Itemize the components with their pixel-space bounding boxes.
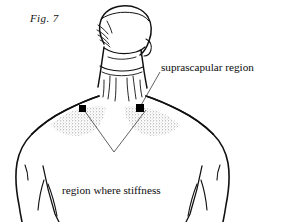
nape-line-2 bbox=[102, 72, 142, 76]
caption-line-1: region where stiffness bbox=[62, 183, 161, 197]
neck-muscle-strokes bbox=[103, 76, 142, 101]
figure-panel: Fig. 7 suprascapular region region where… bbox=[0, 0, 286, 222]
nape-line bbox=[100, 66, 143, 71]
head-crown-contour bbox=[101, 12, 149, 21]
shaded-regions-group bbox=[40, 98, 195, 146]
stiffness-region-caption: region where stiffness of the shoulderss… bbox=[62, 155, 161, 222]
right-suprascapular-marker bbox=[136, 104, 144, 112]
shoulder-right-arm bbox=[213, 134, 229, 222]
occiput-shadow bbox=[108, 57, 136, 59]
hairline bbox=[104, 47, 145, 53]
shoulder-left-arm bbox=[16, 134, 32, 222]
suprascapular-region-label: suprascapular region bbox=[161, 60, 254, 74]
figure-number-label: Fig. 7 bbox=[30, 12, 59, 24]
left-suprascapular-marker bbox=[79, 105, 86, 112]
right-suprascapular-shading bbox=[115, 98, 195, 146]
suprascapular-leader-line bbox=[140, 72, 160, 107]
head-outline bbox=[100, 6, 152, 55]
